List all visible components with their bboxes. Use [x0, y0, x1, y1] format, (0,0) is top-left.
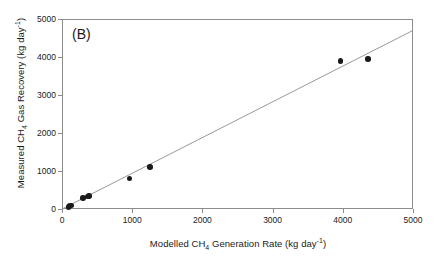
data-point: [86, 193, 92, 199]
y-tick-label: 1000: [37, 166, 56, 176]
x-tick-label: 2000: [193, 215, 212, 225]
x-tick-mark: [202, 209, 203, 213]
x-tick-label: 1000: [123, 215, 142, 225]
x-axis-title-post: ): [323, 238, 326, 249]
data-point: [147, 164, 153, 170]
x-tick-mark: [273, 209, 274, 213]
y-tick-label: 2000: [37, 128, 56, 138]
data-point: [365, 56, 371, 62]
y-axis-title-post: ): [15, 18, 26, 21]
y-tick-label: 3000: [37, 90, 56, 100]
y-axis-title-pre: Measured CH: [15, 129, 26, 188]
x-tick-label: 5000: [404, 215, 423, 225]
y-axis-title-superscript: -1: [14, 21, 21, 27]
plot-area: 010002000300040005000 010002000300040005…: [62, 19, 413, 209]
x-axis-title: Modelled CH4 Generation Rate (kg day-1): [62, 238, 414, 249]
x-tick-label: 4000: [333, 215, 352, 225]
y-tick-label: 0: [51, 204, 56, 214]
y-tick-label: 5000: [37, 14, 56, 24]
panel-label: (B): [72, 26, 91, 42]
y-axis-title-mid: Gas Recovery (kg day: [15, 27, 26, 125]
x-tick-label: 3000: [263, 215, 282, 225]
x-tick-label: 0: [60, 215, 65, 225]
regression-line: [62, 19, 413, 209]
x-axis-title-mid: Generation Rate (kg day: [209, 238, 316, 249]
x-tick-mark: [132, 209, 133, 213]
y-axis-title-subscript: 4: [21, 125, 28, 129]
data-point: [338, 58, 344, 64]
y-tick-label: 4000: [37, 52, 56, 62]
x-tick-mark: [413, 209, 414, 213]
figure-panel-b: Measured CH4 Gas Recovery (kg day-1) Mod…: [0, 0, 434, 260]
x-axis-title-pre: Modelled CH: [150, 238, 205, 249]
y-axis-title: Measured CH4 Gas Recovery (kg day-1): [14, 0, 28, 208]
x-tick-mark: [62, 209, 63, 213]
x-tick-mark: [343, 209, 344, 213]
